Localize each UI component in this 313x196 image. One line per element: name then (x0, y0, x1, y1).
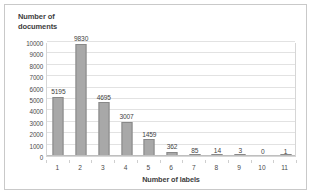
x-axis-tick-label: 6 (169, 164, 173, 171)
bar-value-label: 1459 (142, 131, 156, 138)
bar[interactable] (76, 44, 87, 156)
bar-slot: 362 (161, 43, 184, 156)
x-axis-tick-labels: 1234567891011 (46, 160, 296, 172)
y-axis-tick-labels: 0100020003000400050006000700080009000100… (8, 43, 43, 157)
x-axis-tick-mark (114, 160, 115, 163)
x-axis-tick-mark (46, 160, 47, 163)
y-axis-tick-label: 5000 (9, 97, 43, 104)
y-axis-tick-label: 3000 (9, 119, 43, 126)
bar-slot: 9830 (70, 43, 93, 156)
y-axis-tick-label: 0 (9, 154, 43, 161)
bar-value-label: 362 (167, 143, 178, 150)
x-axis-tick-mark (91, 160, 92, 163)
bar-value-label: 0 (261, 148, 265, 155)
x-axis-tick-label: 3 (101, 164, 105, 171)
bar[interactable] (98, 102, 109, 156)
y-axis-title: Number of documents (18, 12, 88, 31)
bar-slot: 4695 (92, 43, 115, 156)
bar-value-label: 4695 (97, 94, 111, 101)
x-axis-tick-mark (205, 160, 206, 163)
x-axis-line (47, 155, 295, 156)
x-axis-tick-label: 2 (78, 164, 82, 171)
bar-value-label: 3007 (119, 113, 133, 120)
x-axis-tick-mark (228, 160, 229, 163)
x-axis-tick-mark (273, 160, 274, 163)
bar-value-label: 85 (191, 147, 198, 154)
x-axis-tick-mark (69, 160, 70, 163)
plot-area: 519598304695300714593628514301 (46, 43, 296, 157)
x-axis-tick-mark (160, 160, 161, 163)
x-axis-tick-label: 4 (124, 164, 128, 171)
bar-value-label: 5195 (51, 88, 65, 95)
x-axis-tick-label: 7 (192, 164, 196, 171)
bar-value-label: 14 (214, 147, 221, 154)
y-axis-tick-label: 2000 (9, 131, 43, 138)
y-axis-tick-label: 8000 (9, 62, 43, 69)
bar[interactable] (144, 139, 155, 156)
x-axis-tick-label: 11 (281, 164, 288, 171)
y-axis-tick-label: 4000 (9, 108, 43, 115)
bar-slot: 85 (183, 43, 206, 156)
x-axis-tick-mark (137, 160, 138, 163)
x-axis-tick-label: 10 (258, 164, 265, 171)
bar-value-label: 9830 (74, 35, 88, 42)
chart-frame: Number of documents 01000200030004000500… (4, 4, 307, 190)
x-axis-tick-mark (251, 160, 252, 163)
bar-value-label: 1 (284, 148, 288, 155)
bar[interactable] (53, 97, 64, 156)
x-axis-tick-label: 8 (215, 164, 219, 171)
x-axis-tick-mark (296, 160, 297, 163)
x-axis-tick-label: 1 (56, 164, 60, 171)
bar[interactable] (121, 122, 132, 156)
bar-slot: 1459 (138, 43, 161, 156)
x-axis-tick-mark (182, 160, 183, 163)
x-axis-tick-label: 5 (146, 164, 150, 171)
bar-slot: 14 (206, 43, 229, 156)
y-axis-tick-label: 7000 (9, 74, 43, 81)
y-axis-tick-label: 6000 (9, 85, 43, 92)
bar-slot: 0 (252, 43, 275, 156)
bar-value-label: 3 (238, 147, 242, 154)
x-axis-title: Number of labels (46, 175, 296, 184)
bar-slot: 1 (274, 43, 297, 156)
bar-slot: 5195 (47, 43, 70, 156)
bar-slot: 3007 (115, 43, 138, 156)
bar-slot: 3 (229, 43, 252, 156)
y-axis-tick-label: 1000 (9, 142, 43, 149)
x-axis-tick-label: 9 (237, 164, 241, 171)
y-axis-tick-label: 9000 (9, 51, 43, 58)
y-axis-tick-label: 10000 (9, 40, 43, 47)
